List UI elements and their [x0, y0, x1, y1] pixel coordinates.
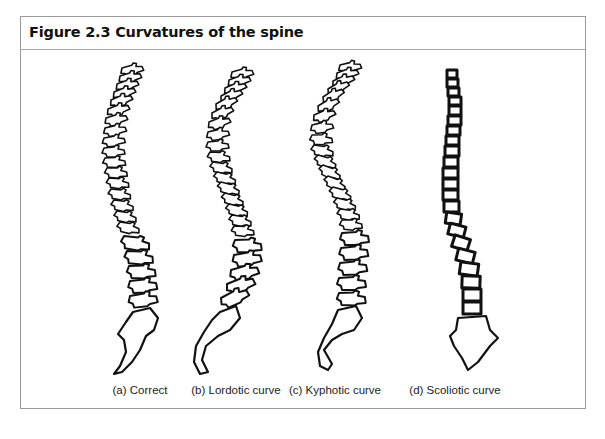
- caption-kyphotic: (c) Kyphotic curve: [289, 384, 381, 396]
- caption-scoliotic: (d) Scoliotic curve: [409, 384, 500, 396]
- spine-scoliotic: [443, 70, 498, 370]
- caption-correct: (a) Correct: [113, 384, 168, 396]
- spine-illustrations: [0, 0, 605, 439]
- spine-correct: [102, 61, 158, 374]
- spine-kyphotic: [309, 59, 369, 370]
- caption-lordotic: (b) Lordotic curve: [191, 384, 280, 396]
- spine-lordotic: [194, 65, 262, 374]
